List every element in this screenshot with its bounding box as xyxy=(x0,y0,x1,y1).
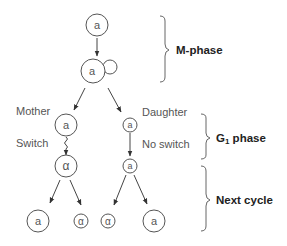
m-phase-label: M-phase xyxy=(176,44,223,56)
mother-label: Mother xyxy=(16,105,51,117)
g1-phase-brace xyxy=(201,114,210,159)
arrow-to-mother xyxy=(74,88,85,110)
cell-lineage-diagram: a a Mother Daughter Switch No switch a a… xyxy=(0,0,287,246)
svg-text:a: a xyxy=(151,215,158,227)
svg-text:a: a xyxy=(127,161,132,171)
svg-text:α: α xyxy=(78,216,84,227)
svg-text:α: α xyxy=(63,159,70,173)
arrow-gen3-2 xyxy=(70,180,81,205)
gen3-cell-2: α xyxy=(74,214,88,228)
g1-phase-label: G1 phase xyxy=(216,132,266,146)
svg-text:a: a xyxy=(63,119,70,131)
svg-text:α: α xyxy=(105,216,111,227)
no-switch-label: No switch xyxy=(142,138,190,150)
svg-text:a: a xyxy=(35,215,42,227)
mother-cell: a xyxy=(55,114,77,136)
svg-text:a: a xyxy=(94,19,101,31)
daughter-a-cell: a xyxy=(123,159,137,173)
next-cycle-brace xyxy=(201,166,210,231)
arrow-to-daughter xyxy=(108,88,121,112)
gen3-cell-3: α xyxy=(101,214,115,228)
switch-label: Switch xyxy=(16,137,48,149)
next-cycle-label: Next cycle xyxy=(216,194,273,206)
arrow-gen3-3 xyxy=(114,175,126,205)
top-cell: a xyxy=(86,14,108,36)
svg-text:a: a xyxy=(127,120,132,130)
daughter-label: Daughter xyxy=(142,106,188,118)
gen3-cell-1: a xyxy=(27,210,49,232)
m-phase-brace xyxy=(160,16,169,82)
arrow-gen3-4 xyxy=(134,175,147,204)
mother-alpha-cell: α xyxy=(55,155,77,177)
gen3-cell-4: a xyxy=(143,210,165,232)
switch-arrow xyxy=(65,137,68,155)
budding-cell: a xyxy=(81,59,117,83)
arrow-gen3-1 xyxy=(50,180,60,203)
svg-text:a: a xyxy=(89,65,96,77)
daughter-cell: a xyxy=(123,118,137,132)
